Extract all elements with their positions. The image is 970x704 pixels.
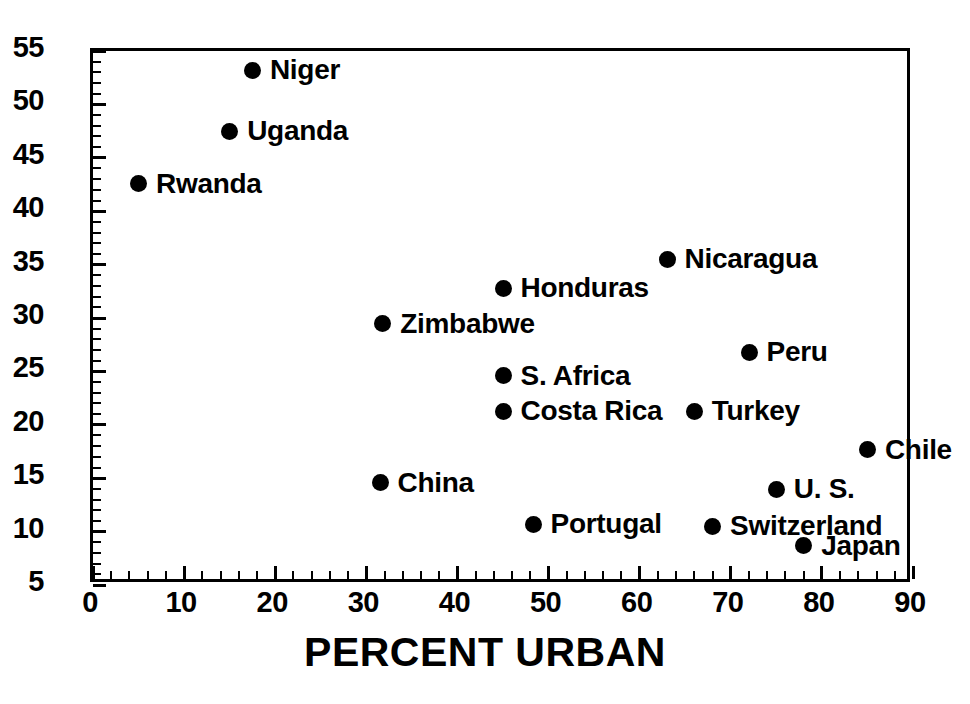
x-tick-minor (602, 571, 604, 579)
x-tick-minor (584, 571, 586, 579)
x-tick-minor (256, 571, 258, 579)
y-tick-minor (93, 541, 101, 543)
x-tick-major (547, 566, 550, 579)
y-tick-major (93, 210, 106, 213)
data-point-marker (244, 62, 261, 79)
x-tick-minor (311, 571, 313, 579)
x-tick-minor (839, 571, 841, 579)
data-point-marker (495, 280, 512, 297)
x-tick-minor (675, 571, 677, 579)
data-point-marker (704, 518, 721, 535)
y-tick-minor (93, 499, 101, 501)
x-tick-minor (438, 571, 440, 579)
y-tick-minor (93, 456, 101, 458)
x-tick-label: 90 (875, 588, 945, 617)
data-point-marker (374, 315, 391, 332)
data-point[interactable]: S. Africa (495, 362, 631, 390)
data-point[interactable]: U. S. (768, 475, 855, 503)
y-tick-minor (93, 445, 101, 447)
data-point-label: Niger (270, 56, 340, 84)
y-tick-minor (93, 200, 101, 202)
y-tick-minor (93, 232, 101, 234)
x-tick-minor (657, 571, 659, 579)
data-point-label: China (398, 469, 474, 497)
y-tick-minor (93, 413, 101, 415)
data-point[interactable]: Japan (795, 532, 900, 560)
x-tick-minor (384, 571, 386, 579)
data-point[interactable]: Niger (244, 56, 340, 84)
y-tick-label: 25 (0, 353, 44, 382)
y-tick-minor (93, 467, 101, 469)
x-tick-label: 10 (146, 588, 216, 617)
y-tick-minor (93, 392, 101, 394)
x-tick-label: 0 (55, 588, 125, 617)
x-tick-minor (128, 571, 130, 579)
x-tick-major (912, 566, 915, 579)
y-tick-major (93, 370, 106, 373)
y-tick-label: 55 (0, 33, 44, 62)
y-tick-label: 5 (0, 567, 44, 596)
x-tick-label: 30 (328, 588, 398, 617)
y-tick-major (93, 423, 106, 426)
data-point-marker (372, 474, 389, 491)
y-tick-minor (93, 296, 101, 298)
y-tick-major (93, 477, 106, 480)
y-tick-major (93, 50, 106, 53)
data-point[interactable]: Peru (741, 338, 828, 366)
y-tick-label: 45 (0, 140, 44, 169)
x-tick-minor (566, 571, 568, 579)
x-tick-minor (329, 571, 331, 579)
x-axis-title: PERCENT URBAN (0, 629, 970, 676)
data-point[interactable]: Uganda (221, 117, 348, 145)
data-point-marker (686, 403, 703, 420)
y-tick-minor (93, 221, 101, 223)
y-tick-minor (93, 253, 101, 255)
x-tick-minor (748, 571, 750, 579)
data-point-label: Chile (885, 436, 952, 464)
data-point-label: U. S. (794, 475, 855, 503)
data-point[interactable]: Honduras (495, 274, 649, 302)
x-tick-major (274, 566, 277, 579)
data-point[interactable]: Zimbabwe (374, 310, 535, 338)
data-point-marker (130, 175, 147, 192)
data-point[interactable]: Turkey (686, 397, 800, 425)
y-tick-minor (93, 360, 101, 362)
y-tick-minor (93, 82, 101, 84)
data-point-marker (859, 441, 876, 458)
x-tick-minor (712, 571, 714, 579)
x-tick-major (820, 566, 823, 579)
data-point-label: Portugal (551, 510, 662, 538)
data-point[interactable]: Portugal (525, 510, 662, 538)
x-tick-major (365, 566, 368, 579)
data-point-label: Honduras (521, 274, 649, 302)
y-tick-label: 40 (0, 193, 44, 222)
x-tick-label: 80 (784, 588, 854, 617)
x-tick-minor (475, 571, 477, 579)
y-tick-minor (93, 402, 101, 404)
x-tick-minor (857, 571, 859, 579)
data-point[interactable]: Rwanda (130, 170, 262, 198)
y-tick-minor (93, 71, 101, 73)
data-point[interactable]: Costa Rica (495, 397, 663, 425)
x-tick-label: 70 (693, 588, 763, 617)
x-tick-label: 40 (419, 588, 489, 617)
y-tick-minor (93, 328, 101, 330)
x-tick-minor (402, 571, 404, 579)
data-point[interactable]: China (372, 469, 474, 497)
data-point-marker (659, 251, 676, 268)
y-tick-minor (93, 563, 101, 565)
y-tick-label: 10 (0, 514, 44, 543)
y-tick-minor (93, 167, 101, 169)
data-point[interactable]: Chile (859, 436, 952, 464)
data-point[interactable]: Nicaragua (659, 245, 818, 273)
y-tick-minor (93, 434, 101, 436)
scatter-chart-figure: 510152025303540455055 NigerUgandaRwandaN… (0, 0, 970, 704)
x-tick-minor (693, 571, 695, 579)
y-tick-minor (93, 520, 101, 522)
data-point-marker (768, 481, 785, 498)
y-tick-minor (93, 93, 101, 95)
x-tick-minor (292, 571, 294, 579)
data-point-marker (495, 367, 512, 384)
x-tick-major (638, 566, 641, 579)
x-tick-label: 60 (602, 588, 672, 617)
